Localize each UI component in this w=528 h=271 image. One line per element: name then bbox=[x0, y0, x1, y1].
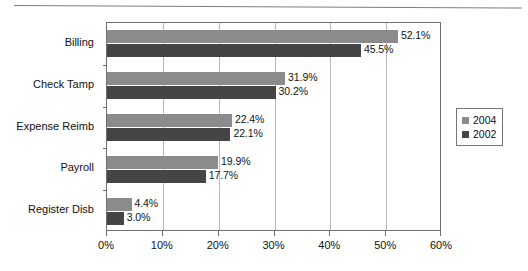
bar-value-label: 30.2% bbox=[279, 86, 308, 97]
bar-2004-register-disb bbox=[107, 198, 132, 211]
x-axis-tick bbox=[162, 231, 163, 236]
bar-2002-payroll bbox=[107, 170, 206, 183]
chart-legend: 20042002 bbox=[456, 108, 503, 146]
bar-group: 52.1%45.5% bbox=[107, 30, 440, 57]
x-axis-label: 10% bbox=[151, 239, 173, 252]
category-tick bbox=[103, 190, 107, 191]
x-axis-tick bbox=[440, 231, 441, 236]
bar-2004-billing bbox=[107, 30, 398, 43]
legend-item-2004: 2004 bbox=[462, 113, 496, 127]
category-label-check-tamp: Check Tamp bbox=[0, 78, 100, 91]
bar-2002-check-tamp bbox=[107, 86, 276, 99]
legend-label: 2004 bbox=[473, 114, 496, 126]
bar-2002-register-disb bbox=[107, 212, 124, 225]
category-axis-labels: BillingCheck TampExpense ReimbPayrollReg… bbox=[0, 22, 100, 231]
x-axis-tick bbox=[329, 231, 330, 236]
bar-group: 19.9%17.7% bbox=[107, 156, 440, 183]
bar-group: 22.4%22.1% bbox=[107, 114, 440, 141]
plot-area: 52.1%45.5%31.9%30.2%22.4%22.1%19.9%17.7%… bbox=[106, 22, 441, 231]
bar-value-label: 17.7% bbox=[209, 170, 238, 181]
category-tick bbox=[103, 148, 107, 149]
legend-label: 2002 bbox=[473, 128, 496, 140]
category-label-expense-reimb: Expense Reimb bbox=[0, 120, 100, 133]
bar-value-label: 22.1% bbox=[233, 128, 262, 139]
bar-2004-expense-reimb bbox=[107, 114, 232, 127]
legend-swatch-icon bbox=[462, 117, 469, 124]
bar-2002-expense-reimb bbox=[107, 128, 230, 141]
x-axis-label: 60% bbox=[430, 239, 452, 252]
bar-value-label: 22.4% bbox=[235, 114, 264, 125]
x-axis-tick bbox=[385, 231, 386, 236]
bar-2004-check-tamp bbox=[107, 72, 285, 85]
legend-item-2002: 2002 bbox=[462, 127, 496, 141]
bar-2004-payroll bbox=[107, 156, 218, 169]
bar-value-label: 52.1% bbox=[401, 30, 430, 41]
category-label-payroll: Payroll bbox=[0, 161, 100, 174]
x-axis-label: 20% bbox=[207, 239, 229, 252]
x-axis-tick bbox=[106, 231, 107, 236]
category-label-register-disb: Register Disb bbox=[0, 203, 100, 216]
x-axis-label: 40% bbox=[318, 239, 340, 252]
bar-2002-billing bbox=[107, 44, 361, 57]
bar-value-label: 19.9% bbox=[221, 156, 250, 167]
bar-value-label: 31.9% bbox=[288, 72, 317, 83]
x-axis-tick bbox=[218, 231, 219, 236]
category-tick bbox=[103, 65, 107, 66]
x-axis-label: 50% bbox=[374, 239, 396, 252]
x-axis-tick bbox=[274, 231, 275, 236]
x-axis: 0%10%20%30%40%50%60% bbox=[106, 231, 441, 261]
x-axis-label: 30% bbox=[262, 239, 284, 252]
bar-group: 4.4%3.0% bbox=[107, 198, 440, 225]
bar-value-label: 4.4% bbox=[135, 198, 159, 209]
bar-value-label: 45.5% bbox=[364, 44, 393, 55]
bar-value-label: 3.0% bbox=[127, 212, 151, 223]
bar-group: 31.9%30.2% bbox=[107, 72, 440, 99]
category-tick bbox=[103, 107, 107, 108]
x-axis-label: 0% bbox=[98, 239, 114, 252]
bar-chart-figure: BillingCheck TampExpense ReimbPayrollReg… bbox=[0, 0, 528, 271]
legend-swatch-icon bbox=[462, 131, 469, 138]
category-label-billing: Billing bbox=[0, 36, 100, 49]
